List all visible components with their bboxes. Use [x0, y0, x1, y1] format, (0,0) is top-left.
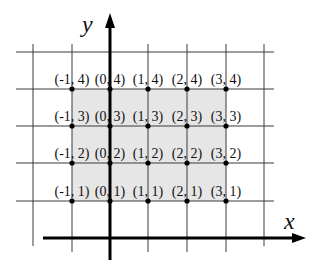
lattice-point-label: (1, 2): [133, 146, 164, 162]
lattice-point-label: (0, 2): [95, 146, 126, 162]
lattice-point-dot: [69, 86, 74, 91]
lattice-point-dot: [107, 123, 112, 128]
lattice-point-dot: [184, 86, 189, 91]
lattice-point-dot: [184, 160, 189, 165]
y-axis-arrow-icon: [105, 13, 115, 28]
lattice-point-label: (3, 2): [211, 146, 242, 162]
lattice-point-label: (1, 1): [133, 184, 164, 200]
x-axis-arrow-icon: [292, 233, 306, 243]
lattice-point-label: (-1, 2): [55, 146, 90, 162]
lattice-point-label: (1, 3): [133, 109, 164, 125]
lattice-point-dot: [223, 160, 228, 165]
lattice-point-dot: [184, 198, 189, 203]
lattice-point-dot: [145, 86, 150, 91]
lattice-point-dot: [69, 123, 74, 128]
lattice-point-label: (3, 4): [211, 72, 242, 88]
lattice-point-dot: [184, 123, 189, 128]
lattice-point-dot: [145, 198, 150, 203]
lattice-point-label: (2, 4): [172, 72, 203, 88]
lattice-point-label: (-1, 4): [55, 72, 90, 88]
lattice-point-label: (-1, 1): [55, 184, 90, 200]
lattice-point-dot: [223, 86, 228, 91]
lattice-point-label: (-1, 3): [55, 109, 90, 125]
lattice-point-label: (3, 3): [211, 109, 242, 125]
lattice-point-dot: [145, 123, 150, 128]
lattice-point-dot: [69, 160, 74, 165]
lattice-point-dot: [107, 86, 112, 91]
lattice-point-dot: [107, 160, 112, 165]
lattice-point-dot: [223, 198, 228, 203]
lattice-point-dot: [107, 198, 112, 203]
lattice-point-dot: [223, 123, 228, 128]
coordinate-grid-diagram: x y (-1, 4)(0, 4)(1, 4)(2, 4)(3, 4)(-1, …: [0, 0, 314, 270]
lattice-point-dot: [145, 160, 150, 165]
lattice-point-label: (3, 1): [211, 184, 242, 200]
lattice-point-label: (2, 1): [172, 184, 203, 200]
lattice-point-label: (2, 2): [172, 146, 203, 162]
lattice-point-label: (1, 4): [133, 72, 164, 88]
x-axis-label: x: [283, 208, 295, 234]
lattice-point-label: (0, 3): [95, 109, 126, 125]
lattice-point-label: (2, 3): [172, 109, 203, 125]
lattice-point-dot: [69, 198, 74, 203]
y-axis-label: y: [80, 11, 93, 37]
lattice-point-label: (0, 4): [95, 72, 126, 88]
lattice-point-label: (0, 1): [95, 184, 126, 200]
